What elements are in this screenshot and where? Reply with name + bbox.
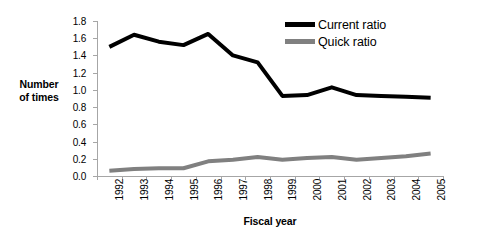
x-axis-tick-label: 1999 [287, 179, 298, 200]
x-axis-tick-label: 1992 [114, 179, 125, 200]
x-axis-tick-label: 2001 [337, 179, 348, 200]
x-axis-tick-label: 2000 [312, 179, 323, 200]
chart-legend: Current ratioQuick ratio [285, 16, 386, 50]
x-axis-tick-label: 2004 [411, 179, 422, 200]
y-axis-tick-label: 0.6 [73, 119, 86, 130]
legend-item: Current ratio [285, 16, 386, 33]
plot-area [97, 21, 443, 176]
x-axis-tick-label: 2003 [386, 179, 397, 200]
x-axis-tick-label: 2005 [436, 179, 447, 200]
y-axis-tick-label: 0.0 [73, 171, 86, 182]
x-axis-tick-label: 1997 [238, 179, 249, 200]
x-axis-tick-labels: 1992199319941995199619971998199920002001… [97, 179, 443, 219]
line-chart: Number of times 0.00.20.40.60.81.01.21.4… [0, 0, 480, 237]
x-axis-title: Fiscal year [97, 215, 443, 227]
x-axis-tick-label: 1994 [164, 179, 175, 200]
y-axis-tick-label: 1.2 [73, 67, 86, 78]
x-axis-tick-label: 2002 [362, 179, 373, 200]
y-axis-tick-label: 1.8 [73, 16, 86, 27]
legend-item: Quick ratio [285, 33, 386, 50]
y-axis-tick-label: 1.0 [73, 84, 86, 95]
legend-label: Current ratio [318, 18, 386, 32]
legend-swatch [285, 39, 315, 44]
x-axis-tick-label: 1993 [139, 179, 150, 200]
legend-swatch [285, 22, 315, 27]
x-axis-tick-label: 1995 [189, 179, 200, 200]
x-axis-tick-label: 1998 [263, 179, 274, 200]
series-line [109, 154, 430, 171]
y-axis-tick-label: 1.4 [73, 50, 86, 61]
y-axis-tick-label: 0.8 [73, 102, 86, 113]
series-lines [97, 21, 443, 177]
y-axis-tick-label: 0.4 [73, 136, 86, 147]
y-axis-tick-labels: 0.00.20.40.60.81.01.21.41.61.8 [52, 0, 90, 237]
x-axis-tick-label: 1996 [213, 179, 224, 200]
y-axis-tick-label: 0.2 [73, 153, 86, 164]
legend-label: Quick ratio [318, 35, 377, 49]
y-axis-tick-label: 1.6 [73, 33, 86, 44]
